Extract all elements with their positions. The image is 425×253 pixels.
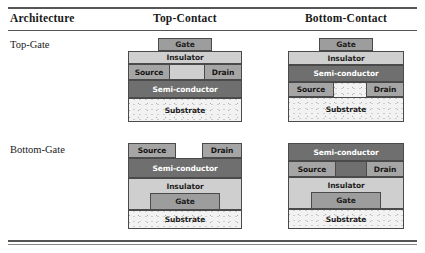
column-header-architecture: Architecture bbox=[10, 12, 75, 28]
layer-source: Source bbox=[288, 161, 336, 177]
layer-insulator: Insulator bbox=[128, 51, 242, 64]
layer-substrate: Substrate bbox=[128, 210, 242, 229]
architecture-table: Architecture Top-Contact Bottom-Contact … bbox=[0, 0, 425, 253]
table-bottom-rule bbox=[8, 240, 417, 242]
layer-gate: Gate bbox=[150, 193, 220, 210]
layer-insulator: Insulator bbox=[288, 177, 404, 192]
layer-substrate: Substrate bbox=[288, 97, 404, 122]
layer-drain: Drain bbox=[202, 143, 242, 158]
layer-semiconductor: Semi-conductor bbox=[288, 65, 404, 82]
device-top-gate-top-contact: Gate Insulator Source Drain Semi-conduct… bbox=[128, 38, 242, 122]
row-label-bottom-gate: Bottom-Gate bbox=[10, 144, 65, 155]
device-bottom-gate-bottom-contact: Semi-conductor Source Drain Insulator Ga… bbox=[288, 143, 404, 229]
layer-substrate: Substrate bbox=[288, 209, 404, 229]
row-label-top-gate: Top-Gate bbox=[10, 39, 50, 50]
layer-drain: Drain bbox=[204, 64, 242, 80]
layer-gate: Gate bbox=[158, 38, 212, 51]
layer-drain: Drain bbox=[366, 161, 404, 177]
layer-gate: Gate bbox=[319, 38, 373, 51]
layer-semiconductor: Semi-conductor bbox=[128, 80, 242, 98]
layer-gate: Gate bbox=[311, 192, 381, 209]
layer-semiconductor: Semi-conductor bbox=[128, 158, 242, 178]
layer-source: Source bbox=[128, 64, 170, 80]
column-header-top-contact: Top-Contact bbox=[128, 12, 242, 28]
device-bottom-gate-top-contact: Source Drain Semi-conductor Insulator Ga… bbox=[128, 143, 242, 229]
layer-semiconductor: Semi-conductor bbox=[288, 143, 404, 161]
layer-source: Source bbox=[128, 143, 176, 158]
layer-substrate: Substrate bbox=[128, 98, 242, 122]
layer-source: Source bbox=[288, 82, 334, 97]
layer-drain: Drain bbox=[366, 82, 404, 97]
column-header-bottom-contact: Bottom-Contact bbox=[288, 12, 404, 28]
layer-insulator: Insulator bbox=[128, 178, 242, 193]
table-top-rule bbox=[8, 7, 417, 9]
device-top-gate-bottom-contact: Gate Insulator Semi-conductor Source Dra… bbox=[288, 38, 404, 122]
table-header-rule bbox=[8, 30, 417, 31]
layer-insulator: Insulator bbox=[288, 51, 404, 65]
table-bottom-rule-secondary bbox=[8, 244, 417, 245]
